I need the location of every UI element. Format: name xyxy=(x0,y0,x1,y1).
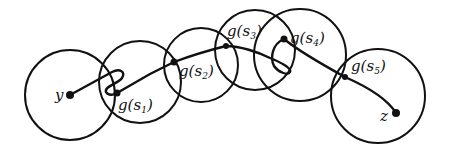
circles xyxy=(25,9,425,143)
label-g-s2: g(s2) xyxy=(179,62,214,81)
label-g-s1: g(s1) xyxy=(118,96,153,115)
label-g-s3: g(s3) xyxy=(227,22,262,41)
label-g-s5: g(s5) xyxy=(351,57,386,76)
label-g-s4: g(s4) xyxy=(290,29,325,48)
point-g-s2 xyxy=(171,59,178,66)
label-z: z xyxy=(379,107,388,125)
point-z xyxy=(392,109,400,117)
point-g-s3 xyxy=(223,43,229,49)
diagram-canvas: y z g(s1) g(s2) g(s3) g(s4) g(s5) xyxy=(0,0,449,152)
label-y: y xyxy=(54,86,64,104)
point-g-s4 xyxy=(281,36,288,43)
point-y xyxy=(66,91,74,99)
point-g-s5 xyxy=(342,74,348,80)
